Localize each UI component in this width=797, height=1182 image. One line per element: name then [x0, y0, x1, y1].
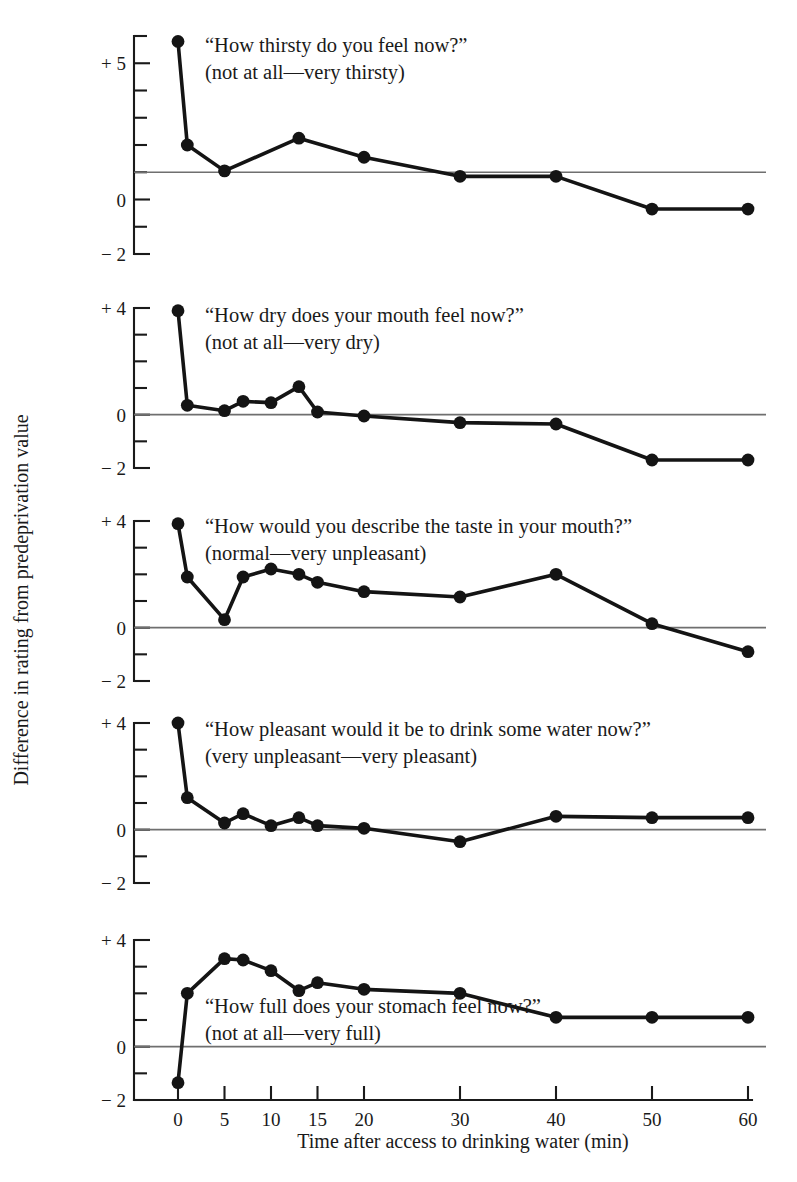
data-point[interactable]: [742, 811, 755, 824]
data-point[interactable]: [181, 399, 194, 412]
y-tick-label: 0: [117, 618, 127, 639]
data-point[interactable]: [172, 35, 185, 48]
panel-question-label: “How full does your stomach feel now?”: [205, 995, 541, 1018]
y-tick-label: + 4: [101, 298, 126, 319]
data-point[interactable]: [311, 819, 324, 832]
data-point[interactable]: [181, 139, 194, 152]
data-point[interactable]: [646, 1011, 659, 1024]
x-tick-label: 10: [262, 1109, 281, 1130]
x-tick-label: 50: [643, 1109, 662, 1130]
thirst-ratings-figure: + 50− 2“How thirsty do you feel now?”(no…: [0, 0, 797, 1182]
data-point[interactable]: [454, 416, 467, 429]
y-tick-label: − 2: [101, 458, 126, 479]
panel-question-label: “How would you describe the taste in you…: [205, 515, 632, 538]
x-tick-label: 0: [173, 1109, 183, 1130]
panel-taste: + 40− 2“How would you describe the taste…: [101, 511, 766, 692]
data-point[interactable]: [237, 954, 250, 967]
data-point[interactable]: [358, 983, 371, 996]
x-tick-label: 40: [547, 1109, 566, 1130]
data-point[interactable]: [454, 170, 467, 183]
data-point[interactable]: [293, 380, 306, 393]
y-tick-label: + 5: [101, 53, 126, 74]
panel-dry-mouth: + 40− 2“How dry does your mouth feel now…: [101, 298, 766, 479]
x-tick-label: 60: [739, 1109, 758, 1130]
data-point[interactable]: [311, 576, 324, 589]
data-point[interactable]: [218, 613, 231, 626]
panel-scale-label: (not at all—very full): [205, 1022, 381, 1045]
data-point[interactable]: [454, 835, 467, 848]
panel-scale-label: (normal—very unpleasant): [205, 542, 426, 565]
y-tick-label: + 4: [101, 930, 126, 951]
data-point[interactable]: [218, 404, 231, 417]
data-point[interactable]: [181, 987, 194, 1000]
data-point[interactable]: [172, 717, 185, 730]
data-point[interactable]: [742, 1011, 755, 1024]
data-point[interactable]: [237, 395, 250, 408]
panel-scale-label: (not at all—very dry): [205, 331, 380, 354]
data-point[interactable]: [265, 964, 278, 977]
data-line: [178, 723, 748, 842]
data-point[interactable]: [237, 807, 250, 820]
data-point[interactable]: [646, 454, 659, 467]
data-point[interactable]: [742, 645, 755, 658]
data-point[interactable]: [181, 571, 194, 584]
y-tick-label: − 2: [101, 873, 126, 894]
x-tick-label: 20: [355, 1109, 374, 1130]
data-point[interactable]: [550, 568, 563, 581]
y-tick-label: − 2: [101, 671, 126, 692]
data-point[interactable]: [172, 1076, 185, 1089]
data-point[interactable]: [293, 132, 306, 145]
data-point[interactable]: [550, 810, 563, 823]
y-tick-label: + 4: [101, 713, 126, 734]
panel-stomach-full: + 40− 20510152030405060“How full does yo…: [101, 930, 766, 1130]
data-point[interactable]: [742, 203, 755, 216]
data-point[interactable]: [646, 811, 659, 824]
data-point[interactable]: [218, 164, 231, 177]
data-point[interactable]: [265, 819, 278, 832]
data-point[interactable]: [265, 396, 278, 409]
data-point[interactable]: [358, 410, 371, 423]
data-point[interactable]: [218, 817, 231, 830]
data-point[interactable]: [550, 170, 563, 183]
data-point[interactable]: [454, 591, 467, 604]
panel-question-label: “How dry does your mouth feel now?”: [205, 304, 524, 327]
data-point[interactable]: [358, 151, 371, 164]
y-tick-label: 0: [117, 1037, 127, 1058]
y-tick-label: − 2: [101, 1090, 126, 1111]
data-point[interactable]: [293, 568, 306, 581]
x-tick-label: 15: [308, 1109, 327, 1130]
x-tick-label: 5: [220, 1109, 230, 1130]
data-point[interactable]: [218, 952, 231, 965]
data-line: [178, 959, 748, 1083]
panel-pleasant-to-drink: + 40− 2“How pleasant would it be to drin…: [101, 713, 766, 894]
data-point[interactable]: [172, 517, 185, 530]
x-tick-label: 30: [451, 1109, 470, 1130]
y-tick-label: + 4: [101, 511, 126, 532]
panel-scale-label: (very unpleasant—very pleasant): [205, 745, 477, 768]
data-point[interactable]: [181, 791, 194, 804]
panel-question-label: “How thirsty do you feel now?”: [205, 34, 467, 57]
data-point[interactable]: [550, 418, 563, 431]
data-point[interactable]: [646, 617, 659, 630]
data-point[interactable]: [358, 822, 371, 835]
data-point[interactable]: [550, 1011, 563, 1024]
y-axis-title: Difference in rating from predeprivation…: [10, 414, 33, 785]
y-tick-label: 0: [117, 405, 127, 426]
y-tick-label: 0: [117, 820, 127, 841]
data-point[interactable]: [311, 976, 324, 989]
y-tick-label: 0: [117, 190, 127, 211]
panel-scale-label: (not at all—very thirsty): [205, 61, 405, 84]
data-point[interactable]: [265, 563, 278, 576]
multi-panel-line-chart: + 50− 2“How thirsty do you feel now?”(no…: [0, 0, 797, 1182]
panel-thirsty: + 50− 2“How thirsty do you feel now?”(no…: [101, 34, 766, 265]
data-point[interactable]: [646, 203, 659, 216]
data-point[interactable]: [311, 406, 324, 419]
data-point[interactable]: [172, 304, 185, 317]
y-tick-label: − 2: [101, 244, 126, 265]
data-point[interactable]: [742, 454, 755, 467]
x-axis-title: Time after access to drinking water (min…: [297, 1130, 628, 1153]
data-point[interactable]: [237, 571, 250, 584]
data-point[interactable]: [293, 811, 306, 824]
data-point[interactable]: [358, 585, 371, 598]
panel-question-label: “How pleasant would it be to drink some …: [205, 718, 651, 741]
